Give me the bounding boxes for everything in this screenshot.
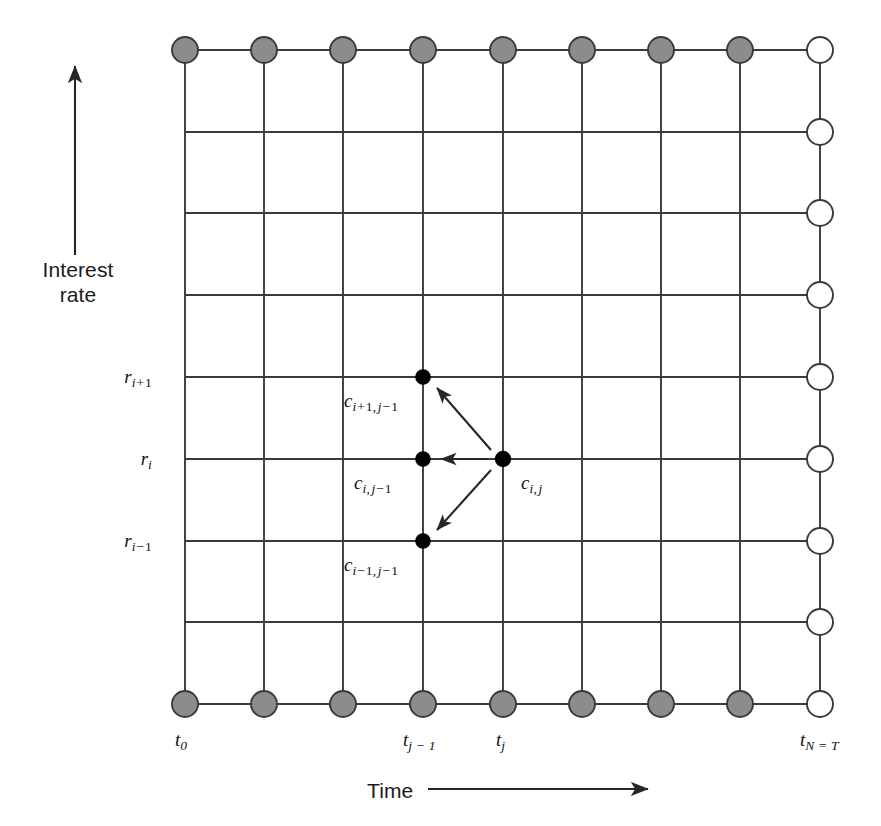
y-axis-label-line2: rate (28, 283, 128, 308)
y-axis-label-line1: Interest (43, 258, 114, 281)
shaded-node (410, 691, 436, 717)
shaded-node (410, 37, 436, 63)
solid-node-c-i-minus-1-j-minus-1 (415, 533, 431, 549)
open-node (807, 37, 833, 63)
grid-lines (185, 50, 820, 704)
time-tick-t-0: t0 (175, 729, 187, 754)
open-node (807, 528, 833, 554)
time-tick-t-j: tj (496, 729, 505, 754)
shaded-node (251, 691, 277, 717)
x-axis-label: Time (367, 779, 413, 804)
time-tick-t-N-eq-T: tN = T (800, 729, 839, 754)
shaded-node (172, 691, 198, 717)
cell-label-c-i-plus-1-j-minus-1: ci+1,j−1 (344, 390, 398, 415)
shaded-node (172, 37, 198, 63)
shaded-node (490, 691, 516, 717)
cell-label-c-i-minus-1-j-minus-1: ci−1,j−1 (344, 554, 398, 579)
shaded-node (727, 691, 753, 717)
cell-label-c-i-j-minus-1: ci,j−1 (354, 472, 392, 497)
shaded-node (251, 37, 277, 63)
open-node (807, 282, 833, 308)
time-tick-t-j-minus-1: tj − 1 (403, 729, 436, 754)
transition-arrows (437, 388, 491, 530)
shaded-node (648, 37, 674, 63)
open-node (807, 119, 833, 145)
rate-tick-r-i: ri (88, 448, 152, 473)
open-node (807, 609, 833, 635)
open-node (807, 200, 833, 226)
shaded-node (330, 691, 356, 717)
open-node (807, 364, 833, 390)
axis-arrows (75, 66, 648, 789)
solid-node-c-i-j-minus-1 (415, 451, 431, 467)
cell-label-c-i-j: ci,j (521, 472, 542, 497)
shaded-node (569, 37, 595, 63)
trinomial-tree-figure: Interest rate Time ri+1 ri ri−1 t0 tj − … (0, 0, 881, 826)
rate-tick-r-i-minus-1: ri−1 (88, 530, 152, 555)
solid-node-c-i-j (495, 451, 511, 467)
open-node (807, 691, 833, 717)
open-node (807, 446, 833, 472)
lattice-graphics (0, 0, 881, 826)
y-axis-label: Interest rate (28, 258, 128, 308)
shaded-node (569, 691, 595, 717)
solid-node-c-i-plus-1-j-minus-1 (415, 369, 431, 385)
shaded-node (727, 37, 753, 63)
arrow-up (437, 388, 491, 450)
shaded-node (330, 37, 356, 63)
terminal-nodes-right (807, 37, 833, 717)
shaded-node (490, 37, 516, 63)
rate-tick-r-i-plus-1: ri+1 (88, 366, 152, 391)
shaded-node (648, 691, 674, 717)
arrow-down (437, 470, 491, 530)
